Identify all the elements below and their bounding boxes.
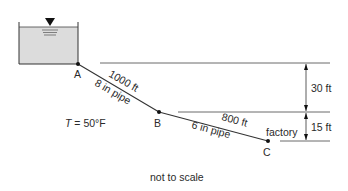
water-level-triangle-icon	[45, 18, 55, 26]
label-point-b: B	[154, 117, 161, 129]
label-point-a: A	[74, 68, 81, 80]
arrow-down-icon	[304, 134, 308, 140]
node-c	[266, 139, 270, 143]
dimension-15ft	[304, 113, 308, 140]
pipe-network-diagram: A B C 1000 ft 8 in pipe 800 ft 6 in pipe…	[0, 0, 348, 191]
arrow-up-icon	[304, 64, 308, 70]
elevation-15ft-label: 15 ft	[311, 121, 332, 133]
reservoir	[19, 18, 78, 64]
not-to-scale-note: not to scale	[150, 171, 204, 183]
node-b	[157, 110, 161, 114]
arrow-down-icon	[304, 105, 308, 111]
temperature-value: = 50°F	[71, 117, 105, 129]
temperature-label: T = 50°F	[65, 117, 106, 129]
dimension-30ft	[304, 64, 308, 111]
node-a	[76, 62, 80, 66]
arrow-up-icon	[304, 113, 308, 119]
label-point-c: C	[263, 146, 271, 158]
factory-label: factory	[266, 126, 298, 138]
elevation-30ft-label: 30 ft	[311, 82, 332, 94]
